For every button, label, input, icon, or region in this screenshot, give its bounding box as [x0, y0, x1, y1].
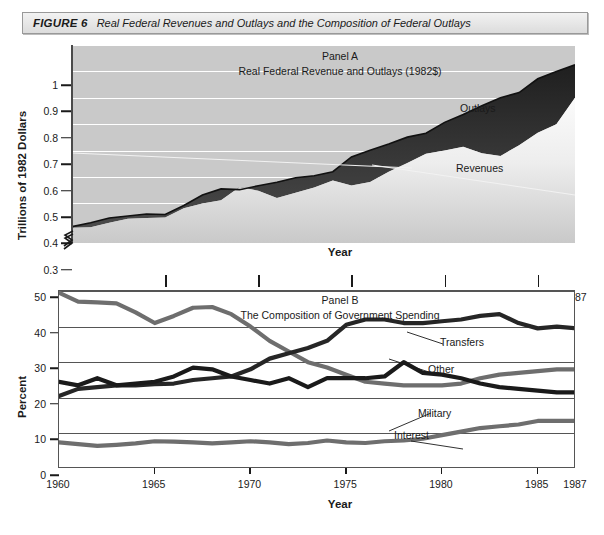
panel-a-subheading: Real Federal Revenue and Outlays (1982$): [238, 65, 441, 77]
panel-a-y-tick-label: 0.6: [22, 185, 58, 197]
panel-b-x-axis-title: Year: [290, 498, 390, 510]
panel-b-series-military: [59, 293, 575, 386]
panel-b-x-tick-label: 1960: [46, 478, 69, 490]
panel-b-y-tick-label: 0: [14, 469, 46, 481]
panel-b-label-transfers: Transfers: [440, 336, 484, 348]
panel-a-y-tick-label: 0.3: [22, 264, 58, 276]
figure-title: Real Federal Revenues and Outlays and th…: [97, 17, 471, 29]
panel-b-y-tick-label: 30: [14, 362, 46, 374]
panel-b-heading: Panel B: [322, 294, 359, 306]
panel-a-x-axis-title: Year: [290, 246, 390, 258]
panel-b-x-tick-label: 1970: [238, 478, 261, 490]
panel-b-x-tick-label: 1987: [563, 478, 586, 490]
panel-b-y-tick-label: 50: [14, 291, 46, 303]
panel-a-y-tick-label: 0.5: [22, 211, 58, 223]
panel-b-y-tick-label: 10: [14, 433, 46, 445]
panel-a-axis-break-icon: [61, 230, 83, 252]
panel-b-y-tick-label: 40: [14, 327, 46, 339]
panel-a-y-tick-mark: [61, 269, 72, 271]
panel-b-leader-line-3: [411, 441, 463, 449]
panel-a-label-outlays: Outlays: [460, 102, 496, 114]
panel-b-series-interest: [59, 421, 575, 446]
panel-b-x-tick-label: 1965: [142, 478, 165, 490]
panel-b-label-military: Military: [418, 407, 451, 419]
panel-a-y-tick-label: 0.9: [22, 105, 58, 117]
panel-a-y-tick-label: 0.7: [22, 158, 58, 170]
panel-b-x-tick-label: 1980: [429, 478, 452, 490]
panel-a-y-tick-label: 1: [22, 79, 58, 91]
panel-b-y-tick-label: 20: [14, 398, 46, 410]
panel-b-label-other: Other: [428, 363, 454, 375]
figure-number: FIGURE 6: [33, 17, 88, 29]
panel-b: Percent 01020304050 19601965197019751980…: [0, 283, 604, 535]
panel-a-heading: Panel A: [322, 50, 358, 62]
panel-b-y-tick-mark: [50, 474, 59, 476]
panel-b-label-interest: Interest: [394, 429, 429, 441]
panel-a: Trillions of 1982 Dollars 0.30.40.50.60.…: [0, 40, 604, 268]
panel-a-label-revenues: Revenues: [456, 162, 503, 174]
panel-b-x-tick-label: 1985: [525, 478, 548, 490]
figure-caption-bar: FIGURE 6 Real Federal Revenues and Outla…: [22, 12, 588, 34]
panel-b-x-tick-label: 1975: [334, 478, 357, 490]
panel-b-leader-line-0: [407, 332, 443, 344]
panel-a-y-tick-label: 0.4: [22, 237, 58, 249]
panel-a-y-tick-label: 0.8: [22, 132, 58, 144]
panel-a-y-axis: [71, 45, 73, 243]
panel-b-subheading: The Composition of Government Spending: [240, 309, 439, 321]
